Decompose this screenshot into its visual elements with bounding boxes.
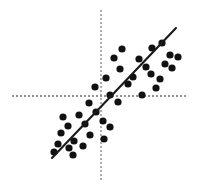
data-point — [168, 64, 175, 71]
data-point — [86, 131, 93, 138]
data-point — [147, 70, 154, 77]
data-point — [100, 135, 107, 142]
data-point — [142, 63, 149, 70]
data-point — [118, 45, 125, 52]
data-point — [59, 113, 66, 120]
data-point — [99, 117, 106, 124]
data-point — [166, 51, 173, 58]
scatter-plot-figure — [0, 0, 204, 187]
data-point — [79, 142, 86, 149]
plot-canvas — [0, 0, 204, 187]
data-point — [135, 55, 142, 62]
data-point — [54, 140, 61, 147]
data-point — [69, 151, 76, 158]
plot-background — [0, 0, 204, 187]
data-point — [116, 65, 123, 72]
data-point — [65, 144, 72, 151]
data-point — [138, 91, 145, 98]
data-point — [57, 129, 64, 136]
data-point — [91, 83, 98, 90]
data-point — [75, 111, 82, 118]
data-point — [106, 123, 113, 130]
data-point — [114, 98, 121, 105]
data-point — [110, 54, 117, 61]
data-point — [85, 99, 92, 106]
data-point — [102, 74, 109, 81]
data-point — [174, 53, 181, 60]
data-point — [64, 122, 71, 129]
data-point — [152, 84, 159, 91]
data-point — [156, 75, 163, 82]
data-point — [161, 60, 168, 67]
